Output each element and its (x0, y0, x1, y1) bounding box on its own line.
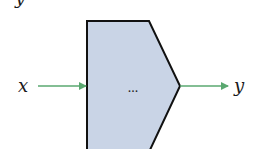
output-label: y (233, 75, 245, 96)
block-diagram: y ... x y (0, 0, 256, 149)
input-label: x (18, 75, 28, 96)
block-ellipsis: ... (128, 80, 139, 95)
top-partial-label: y (14, 0, 26, 8)
